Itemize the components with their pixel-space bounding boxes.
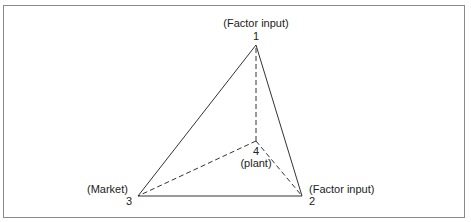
- vertex-4-label: (plant): [226, 157, 286, 169]
- vertex-3-number: 3: [126, 195, 132, 207]
- vertex-2-number: 2: [309, 195, 315, 207]
- vertex-1-number: 1: [246, 30, 266, 42]
- solid-triangle-edges: [138, 45, 302, 196]
- vertex-4-number: 4: [246, 145, 266, 157]
- vertex-3-label: (Market): [87, 183, 128, 195]
- location-triangle-diagram: [0, 0, 471, 222]
- dashed-plant-edges: [138, 45, 302, 196]
- vertex-1-label: (Factor input): [206, 17, 306, 29]
- edge-3-1: [138, 45, 256, 196]
- edge-1-2: [256, 45, 302, 196]
- vertex-2-label: (Factor input): [309, 183, 374, 195]
